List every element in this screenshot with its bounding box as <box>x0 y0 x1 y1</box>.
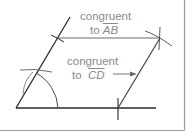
angle-arc <box>36 73 58 108</box>
slanted-line <box>16 17 70 108</box>
label-congruent-ab-line2: to AB <box>90 25 118 37</box>
label-congruent-ab-line1: congruent <box>80 11 131 23</box>
parallelogram-construction-diagram: congruent to AB congruent to CD <box>0 0 187 136</box>
compass-mark-top-right-2 <box>159 27 160 50</box>
right-side <box>118 38 160 108</box>
segment-ab-label: AB <box>103 24 118 36</box>
label-to-prefix: to <box>90 24 103 36</box>
arrow-head-icon <box>130 72 137 77</box>
label-congruent-cd-line1: congruent <box>67 56 118 68</box>
label-congruent-cd-line2: to CD <box>72 70 105 82</box>
label-to-prefix: to <box>72 69 85 81</box>
compass-mark-arc <box>20 69 52 72</box>
segment-cd-label: CD <box>88 69 105 81</box>
